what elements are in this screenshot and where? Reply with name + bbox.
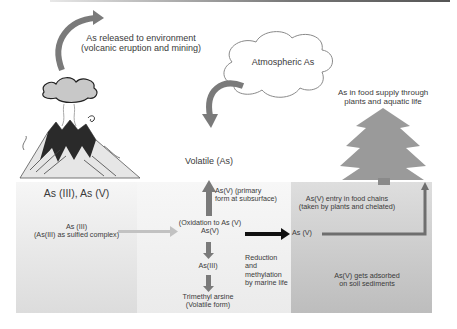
entry-line-2: (taken by plants and chelated) [292,203,402,211]
left-panel-heading: As (III), As (V) [16,187,137,199]
left-panel-body: As (III) (As(III) as sulfied complex) [16,223,137,240]
oxidation-line-2: As(V) [170,227,250,235]
release-line-1: As released to environment [76,33,206,43]
trimethyl-label: Trimethyl arsine (Volatile form) [170,293,246,310]
left-body-line-2: (As(III) as sulfied complex) [16,231,137,239]
reduction-label: Reduction and methylation by marine life [245,254,288,287]
oxidation-label: (Oxidation to As (V) As(V) [170,219,250,236]
food-supply-line-1: As in food supply through [338,88,428,97]
trimethyl-line-2: (Volatile form) [170,301,246,309]
reduction-line-4: by marine life [245,279,288,287]
food-supply-line-2: plants and aquatic life [338,97,428,106]
adsorbed-label: As(V) gets adsorbed on soil sediments [312,272,422,289]
as-v-label: As (V) [292,229,312,237]
release-label: As released to environment (volcanic eru… [76,33,206,54]
as-iii-label: As(III) [188,262,228,270]
primary-form-line-2: form at subsurface) [215,195,277,203]
primary-form-label: As(V) (primary form at subsurface) [215,187,277,204]
atmospheric-label: Atmospheric As [248,57,318,67]
adsorbed-line-2: on soil sediments [312,280,422,288]
food-supply-label: As in food supply through plants and aqu… [338,88,428,106]
release-line-2: (volcanic eruption and mining) [76,43,206,53]
entry-label: As(V) entry in food chains (taken by pla… [292,195,402,212]
volatile-label: Volatile (As) [174,156,244,166]
